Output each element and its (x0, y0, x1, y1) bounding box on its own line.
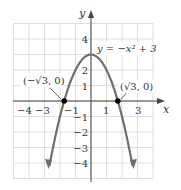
svg-text:−4: −4 (73, 158, 88, 169)
curve-left-arrow-icon (45, 159, 52, 169)
svg-text:1: 1 (82, 81, 88, 92)
axes: x y (13, 7, 170, 182)
svg-text:−4: −4 (17, 105, 32, 116)
svg-text:3: 3 (135, 105, 141, 116)
svg-text:−3: −3 (73, 143, 88, 154)
intercept-points: (−√3, 0) (√3, 0) (20, 74, 156, 104)
svg-text:−2: −2 (73, 127, 88, 138)
point-label-right: (√3, 0) (120, 81, 153, 92)
point-neg-root3 (61, 98, 67, 104)
point-pos-root3 (115, 98, 121, 104)
y-axis-label: y (78, 7, 86, 20)
function-label: y = −x² + 3 (96, 43, 157, 54)
svg-text:1: 1 (103, 105, 109, 116)
parabola-graph: x y −4 −3 −1 1 3 4 2 1 −1 −2 −3 −4 (−√3,… (0, 0, 181, 190)
point-label-left: (−√3, 0) (23, 75, 65, 86)
x-axis-label: x (163, 103, 170, 116)
svg-text:−3: −3 (35, 105, 50, 116)
svg-text:2: 2 (82, 65, 88, 76)
y-axis-arrow-icon (88, 10, 94, 18)
svg-text:4: 4 (82, 34, 88, 45)
curve-right-arrow-icon (130, 159, 137, 169)
svg-text:−1: −1 (73, 112, 88, 123)
